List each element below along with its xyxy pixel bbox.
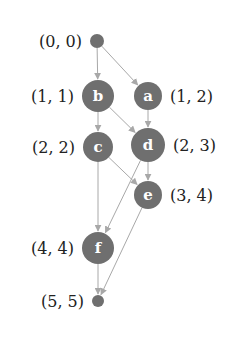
node-circle	[90, 34, 104, 48]
edge-b-to-d	[109, 107, 135, 132]
node-coordinate-label: (3, 4)	[170, 186, 213, 205]
node-f: f(4, 4)	[31, 232, 114, 264]
node-src: (0, 0)	[39, 32, 104, 51]
node-a: a(1, 2)	[134, 82, 213, 110]
node-coordinate-label: (2, 2)	[32, 138, 75, 157]
node-coordinate-label: (0, 0)	[39, 32, 82, 51]
node-coordinate-label: (2, 3)	[173, 136, 216, 155]
node-coordinate-label: (4, 4)	[31, 239, 74, 258]
node-c: c(2, 2)	[32, 132, 113, 162]
node-letter: b	[93, 87, 104, 105]
node-circle	[92, 295, 104, 307]
node-sink: (5, 5)	[41, 292, 104, 311]
node-letter: d	[143, 136, 154, 154]
node-letter: c	[93, 138, 102, 156]
node-d: d(2, 3)	[131, 128, 216, 162]
edge-c-to-e	[109, 157, 137, 184]
edge-src-to-a	[102, 46, 138, 85]
node-b: b(1, 1)	[31, 80, 114, 112]
node-e: e(3, 4)	[134, 181, 213, 209]
node-coordinate-label: (1, 2)	[170, 87, 213, 106]
node-coordinate-label: (1, 1)	[31, 87, 74, 106]
node-letter: e	[143, 186, 153, 204]
node-letter: a	[143, 87, 153, 105]
dag-diagram: (0, 0)b(1, 1)a(1, 2)c(2, 2)d(2, 3)e(3, 4…	[0, 0, 245, 338]
node-coordinate-label: (5, 5)	[41, 292, 84, 311]
edge-src-to-b	[97, 48, 98, 79]
